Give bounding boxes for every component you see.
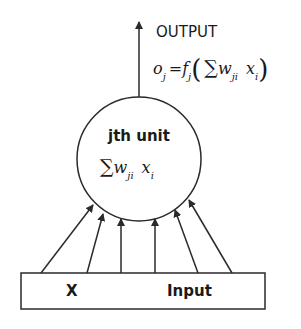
input-subscript: i [151, 170, 154, 181]
equals-sign: = [169, 59, 182, 78]
input-arrow [41, 205, 93, 273]
input-symbol: x [246, 59, 255, 78]
weight-subscript: ji [127, 170, 133, 181]
output-label: OUTPUT [156, 25, 217, 40]
unit-label: jth unit [108, 129, 170, 144]
unit-sum-formula: ∑wjixi [100, 155, 154, 181]
output-symbol: o [153, 59, 163, 78]
output-formula: oj=fj(∑wjixi) [153, 54, 268, 84]
input-label: Input [167, 284, 212, 299]
input-arrow [189, 200, 232, 273]
neural-unit-diagram: OUTPUT oj=fj(∑wjixi) jth unit ∑wjixi X I… [0, 0, 301, 329]
weight-symbol: w [218, 59, 232, 78]
sigma-icon: ∑ [204, 56, 218, 78]
close-paren: ) [258, 54, 268, 84]
weight-symbol: w [114, 158, 128, 177]
open-paren: ( [191, 54, 201, 84]
input-box [21, 273, 265, 309]
input-arrow [87, 214, 103, 273]
input-arrow [175, 210, 198, 273]
input-symbol: x [142, 158, 151, 177]
output-subscript: j [163, 71, 166, 82]
input-vector-label: X [66, 284, 78, 299]
weight-subscript: ji [232, 71, 238, 82]
sigma-icon: ∑ [100, 155, 114, 177]
